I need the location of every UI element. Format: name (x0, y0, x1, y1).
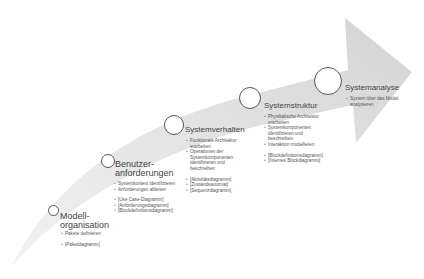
stage-title: Systemverhalten (185, 126, 245, 134)
title-line: Systemstruktur (264, 102, 317, 110)
task-list: System über das Model analysieren (346, 96, 398, 107)
diagram-item: [Internes Blockdiagramm] (264, 158, 323, 164)
stage-title: Systemanalyse (345, 84, 399, 92)
title-line: anforderungen (115, 169, 174, 178)
task-list: Physikalische Architektur erarbeiten Sys… (264, 114, 323, 164)
stage-circle-icon (101, 154, 115, 168)
stage-circle-icon (164, 115, 184, 135)
stage-circle-icon (314, 67, 342, 95)
diagram-item: [Paketdiagramm] (61, 242, 101, 248)
task-list: Pakete definieren [Paketdiagramm] (61, 231, 101, 247)
stage-title: Systemstruktur (264, 102, 317, 110)
diagram-item: [Blockdefinitionsdiagramm] (114, 208, 175, 214)
task-list: Funktionale Architektur erarbeiten Opera… (186, 138, 237, 193)
stage-circle-icon (239, 87, 261, 109)
title-line: organisation (60, 221, 109, 230)
task-list: Systemkontext identifizieren Anforderung… (114, 181, 175, 214)
stage-title: Modell- organisation (60, 212, 109, 231)
stage-circle-icon (48, 205, 59, 216)
task-item-continuation: analysieren (346, 102, 398, 108)
stage-title: Benutzer- anforderungen (115, 160, 174, 179)
diagram-item: [Sequenzdiagramm] (186, 188, 237, 194)
title-line: Systemanalyse (345, 84, 399, 92)
title-line: Systemverhalten (185, 126, 245, 134)
